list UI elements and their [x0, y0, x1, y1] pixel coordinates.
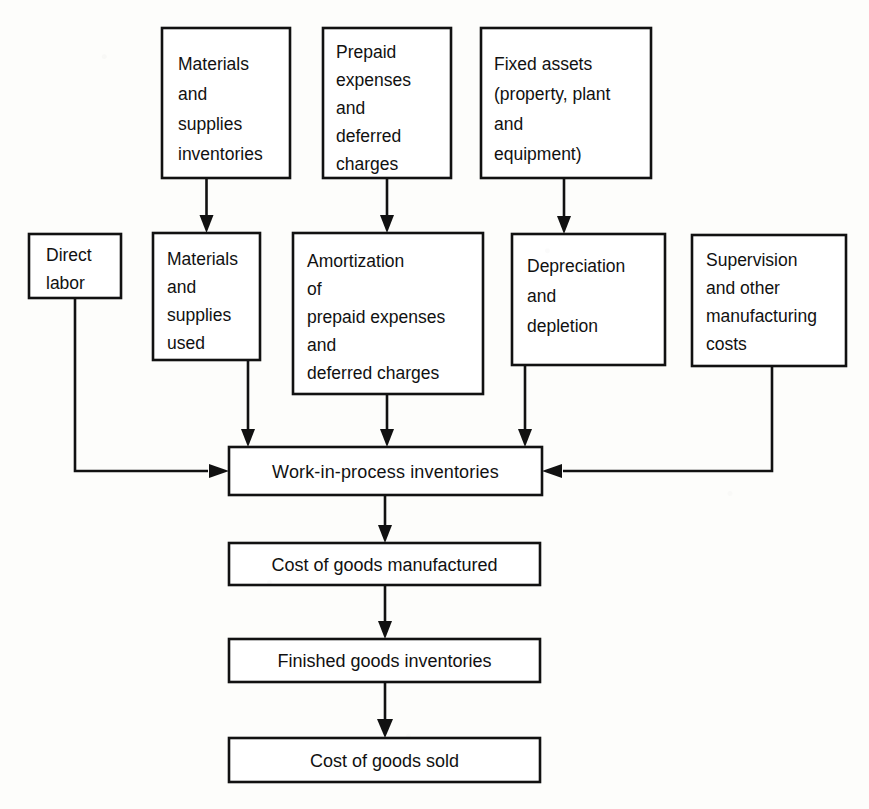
- node-fixed-assets[interactable]: Fixed assets (property, plant and equipm…: [481, 28, 651, 178]
- node-line: Cost of goods sold: [310, 751, 459, 771]
- node-line: equipment): [494, 144, 582, 164]
- edge-prepaid-to-amortization: [380, 178, 394, 233]
- node-line: (property, plant: [494, 84, 611, 104]
- node-amortization-prepaid-deferred[interactable]: Amortization of prepaid expenses and def…: [293, 233, 483, 394]
- node-line: and: [336, 98, 365, 118]
- node-work-in-process-inventories[interactable]: Work-in-process inventories: [229, 447, 542, 495]
- edge-wip-to-cogm: [378, 495, 392, 543]
- edge-cogm-to-fg: [378, 585, 392, 639]
- edge-fg-to-cogs: [377, 682, 393, 738]
- edge-fixed-assets-to-depreciation: [557, 178, 571, 234]
- node-line: Prepaid: [336, 42, 396, 62]
- node-line: expenses: [336, 70, 411, 90]
- node-line: Work-in-process inventories: [272, 462, 499, 482]
- node-depreciation-depletion[interactable]: Depreciation and depletion: [512, 234, 665, 365]
- node-line: deferred charges: [307, 363, 440, 383]
- node-line: supplies: [178, 114, 242, 134]
- node-line: Materials: [178, 54, 249, 74]
- edge-supervision-to-wip: [542, 366, 772, 478]
- node-line: labor: [46, 273, 85, 293]
- node-line: Amortization: [307, 251, 404, 271]
- node-line: inventories: [178, 144, 263, 164]
- edge-amortization-to-wip: [380, 394, 394, 447]
- node-line: Depreciation: [527, 256, 625, 276]
- node-line: Fixed assets: [494, 54, 592, 74]
- node-line: and: [307, 335, 336, 355]
- node-line: Direct: [46, 245, 92, 265]
- node-line: Cost of goods manufactured: [271, 555, 497, 575]
- node-line: and: [527, 286, 556, 306]
- node-line: charges: [336, 154, 399, 174]
- node-line: prepaid expenses: [307, 307, 445, 327]
- node-line: depletion: [527, 316, 598, 336]
- node-line: manufacturing: [706, 306, 817, 326]
- node-line: deferred: [336, 126, 401, 146]
- node-materials-supplies-used[interactable]: Materials and supplies used: [153, 233, 260, 360]
- flowchart-diagram: Materials and supplies inventories Prepa…: [0, 0, 869, 809]
- node-cost-of-goods-manufactured[interactable]: Cost of goods manufactured: [229, 543, 540, 585]
- flowchart-canvas: Materials and supplies inventories Prepa…: [0, 0, 869, 809]
- node-line: Supervision: [706, 250, 797, 270]
- node-prepaid-expenses-deferred-charges[interactable]: Prepaid expenses and deferred charges: [323, 28, 451, 178]
- node-line: and: [494, 114, 523, 134]
- node-line: used: [167, 333, 205, 353]
- node-line: Materials: [167, 249, 238, 269]
- node-line: supplies: [167, 305, 231, 325]
- node-line: of: [307, 279, 322, 299]
- node-line: and: [167, 277, 196, 297]
- node-line: Finished goods inventories: [277, 651, 491, 671]
- node-cost-of-goods-sold[interactable]: Cost of goods sold: [229, 738, 540, 782]
- node-supervision-other-manufacturing-costs[interactable]: Supervision and other manufacturing cost…: [692, 235, 846, 366]
- node-line: and other: [706, 278, 780, 298]
- node-direct-labor[interactable]: Direct labor: [29, 234, 121, 298]
- node-materials-supplies-inventories[interactable]: Materials and supplies inventories: [162, 28, 290, 178]
- edge-depreciation-to-wip: [518, 365, 532, 447]
- edge-materials-used-to-wip: [241, 360, 255, 447]
- node-line: costs: [706, 334, 747, 354]
- node-line: and: [178, 84, 207, 104]
- edge-materials-inventories-to-used: [200, 178, 214, 233]
- node-finished-goods-inventories[interactable]: Finished goods inventories: [229, 639, 540, 682]
